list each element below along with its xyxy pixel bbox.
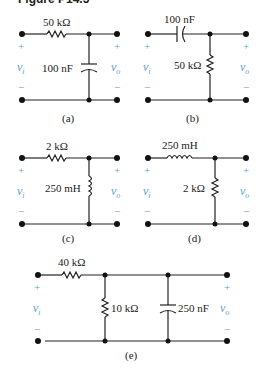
- terminal-node: [114, 31, 120, 37]
- terminal-node: [19, 31, 25, 37]
- terminal-node: [243, 31, 249, 37]
- shunt-label: 100 nF: [42, 62, 73, 74]
- caption-c: (c): [62, 232, 75, 245]
- terminal-node: [19, 221, 25, 227]
- input-plus: +: [144, 40, 150, 52]
- shunt-label-resistor: 10 kΩ: [111, 302, 138, 314]
- series-label: 50 kΩ: [43, 16, 70, 28]
- shunt-label: 50 kΩ: [174, 59, 201, 71]
- output-voltage-label: vo: [111, 60, 120, 76]
- terminal-node: [114, 97, 120, 103]
- output-plus: +: [114, 164, 120, 176]
- terminal-node: [224, 338, 230, 344]
- terminal-node: [243, 155, 249, 161]
- circuit-e: 40 kΩ 10 kΩ 250 nF + vi − + vo − (e): [33, 256, 230, 362]
- input-voltage-label: vi: [33, 301, 41, 317]
- input-voltage-label: vi: [17, 60, 25, 76]
- output-minus: −: [224, 323, 230, 335]
- circuit-figure: 50 kΩ 100 nF + vi − + vo − (a) 100 nF 50…: [0, 0, 263, 371]
- inductor-icon: [89, 176, 92, 196]
- terminal-node: [145, 221, 151, 227]
- terminal-node: [243, 97, 249, 103]
- shunt-label: 2 kΩ: [183, 182, 205, 194]
- series-label: 250 mH: [162, 139, 198, 151]
- resistor-icon: [207, 55, 213, 74]
- input-plus: +: [34, 281, 40, 293]
- shunt-label-capacitor: 250 nF: [178, 302, 209, 314]
- resistor-icon: [47, 155, 66, 161]
- terminal-node: [224, 272, 230, 278]
- terminal-node: [35, 272, 41, 278]
- input-plus: +: [18, 40, 24, 52]
- resistor-icon: [212, 178, 218, 197]
- input-voltage-label: vi: [143, 60, 151, 76]
- input-voltage-label: vi: [17, 184, 25, 200]
- circuit-a: 50 kΩ 100 nF + vi − + vo − (a): [17, 16, 120, 125]
- caption-a: (a): [62, 112, 75, 125]
- output-plus: +: [114, 40, 120, 52]
- output-plus: +: [243, 164, 249, 176]
- caption-b: (b): [186, 112, 199, 125]
- caption-d: (d): [188, 232, 201, 245]
- terminal-node: [145, 155, 151, 161]
- output-plus: +: [224, 281, 230, 293]
- circuit-c: 2 kΩ 250 mH + vi − + vo − (c): [17, 140, 120, 245]
- input-voltage-label: vi: [143, 184, 151, 200]
- terminal-node: [19, 155, 25, 161]
- input-plus: +: [144, 164, 150, 176]
- terminal-node: [145, 97, 151, 103]
- terminal-node: [35, 338, 41, 344]
- output-minus: −: [114, 205, 120, 217]
- input-minus: −: [144, 205, 150, 217]
- series-label: 2 kΩ: [46, 140, 68, 152]
- resistor-icon: [47, 31, 66, 37]
- terminal-node: [145, 31, 151, 37]
- terminal-node: [114, 221, 120, 227]
- output-voltage-label: vo: [220, 301, 229, 317]
- output-plus: +: [243, 40, 249, 52]
- output-voltage-label: vo: [111, 184, 120, 200]
- circuit-d: 250 mH 2 kΩ + vi − + vo − (d): [143, 139, 249, 245]
- circuit-b: 100 nF 50 kΩ + vi − + vo − (b): [143, 13, 249, 125]
- series-label: 40 kΩ: [58, 256, 85, 268]
- output-minus: −: [243, 205, 249, 217]
- terminal-node: [243, 221, 249, 227]
- input-minus: −: [144, 81, 150, 93]
- resistor-icon: [102, 298, 108, 317]
- inductor-icon: [167, 156, 192, 159]
- output-voltage-label: vo: [240, 184, 249, 200]
- input-minus: −: [34, 323, 40, 335]
- terminal-node: [114, 155, 120, 161]
- output-minus: −: [114, 81, 120, 93]
- shunt-label: 250 mH: [45, 182, 81, 194]
- input-minus: −: [18, 81, 24, 93]
- caption-e: (e): [125, 349, 138, 362]
- series-label: 100 nF: [164, 13, 195, 25]
- input-plus: +: [18, 164, 24, 176]
- output-voltage-label: vo: [240, 60, 249, 76]
- input-minus: −: [18, 205, 24, 217]
- output-minus: −: [243, 81, 249, 93]
- resistor-icon: [62, 272, 81, 278]
- terminal-node: [19, 97, 25, 103]
